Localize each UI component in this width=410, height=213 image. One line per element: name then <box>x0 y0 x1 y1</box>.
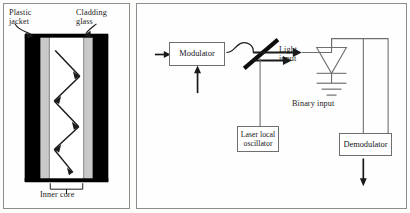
cladding-glass-left <box>40 37 49 182</box>
photodiode-top-wire <box>302 39 388 136</box>
ground-icon <box>317 83 347 95</box>
plastic-jacket-right <box>93 37 109 182</box>
plastic-jacket-label: Plastic jacket <box>9 8 32 26</box>
coherent-diagram-svg <box>137 4 406 208</box>
fiber-top-cap <box>25 34 109 38</box>
binary-input-label: Binary input <box>292 99 334 108</box>
cladding-glass-right <box>84 37 93 182</box>
photodiode-icon <box>317 39 347 84</box>
modulator-block: Modulator <box>169 42 225 66</box>
inner-core-label: Inner core <box>40 190 74 199</box>
modulated-light-squiggle <box>226 43 253 53</box>
panel-coherent-receiver: Light input Binary input Beam splitter (… <box>136 3 407 209</box>
binary-input-arrow <box>194 65 201 93</box>
light-input-label: Light input <box>279 45 297 63</box>
fiber-diagram-svg <box>4 4 129 208</box>
plastic-jacket-left <box>25 37 41 182</box>
figure-root: Plastic jacket Cladding glass Inner core <box>0 0 410 213</box>
demodulator-block: Demodulator <box>339 133 392 156</box>
fiber-bottom-cap <box>25 178 109 182</box>
panel-optical-fiber: Plastic jacket Cladding glass Inner core <box>3 3 130 209</box>
binary-output-arrow <box>360 158 367 186</box>
inner-core-region <box>49 37 83 182</box>
cladding-glass-label: Cladding glass <box>76 8 107 26</box>
laser-local-oscillator-block: Laser local oscillator <box>237 126 279 152</box>
